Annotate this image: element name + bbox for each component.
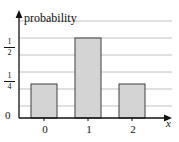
bar-category-0 <box>31 84 57 118</box>
probability-histogram: probability x 1 2 1 4 0 0 1 2 <box>0 0 179 142</box>
y-tick-quarter-denominator: 4 <box>3 83 16 91</box>
y-axis <box>16 10 23 118</box>
y-tick-half-denominator: 2 <box>3 49 16 57</box>
y-tick-label-one-half: 1 2 <box>3 38 16 57</box>
y-tick-quarter-numerator: 1 <box>3 72 16 80</box>
x-tick-label-0: 0 <box>38 124 52 135</box>
x-tick-label-1: 1 <box>82 124 96 135</box>
y-axis-arrow-icon <box>16 10 23 18</box>
y-tick-half-numerator: 1 <box>3 38 16 46</box>
y-tick-label-zero: 0 <box>5 110 11 121</box>
bar-category-1 <box>75 38 101 118</box>
x-tick-label-2: 2 <box>126 124 140 135</box>
x-axis-title: x <box>166 117 171 129</box>
bar-category-2 <box>119 84 145 118</box>
bars <box>31 38 145 118</box>
y-axis-title: probability <box>24 12 77 24</box>
y-tick-label-one-quarter: 1 4 <box>3 72 16 91</box>
